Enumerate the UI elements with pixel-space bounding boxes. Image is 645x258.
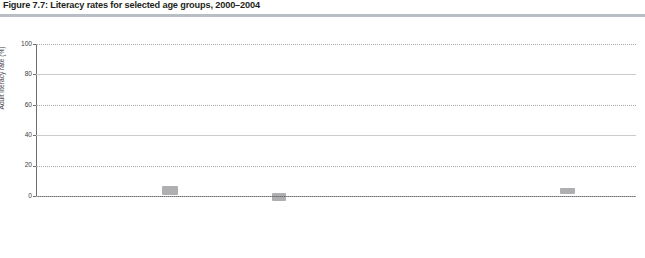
gridline <box>36 74 636 75</box>
y-tick-mark <box>33 166 36 167</box>
y-tick-mark <box>33 105 36 106</box>
y-tick-mark <box>33 135 36 136</box>
gridline <box>36 44 636 45</box>
y-tick-label: 100 <box>12 41 32 48</box>
y-tick-label: 20 <box>12 162 32 169</box>
y-tick-mark <box>33 74 36 75</box>
gridline <box>36 105 636 106</box>
plot-area <box>36 44 636 196</box>
y-tick-mark <box>33 196 36 197</box>
gridline <box>36 196 636 197</box>
y-tick-label: 80 <box>12 71 32 78</box>
scan-artifact <box>560 188 575 194</box>
y-tick-label: 40 <box>12 132 32 139</box>
y-axis-title: Adult literacy rate (%) <box>0 46 5 109</box>
title-divider <box>0 14 645 17</box>
y-tick-label: 60 <box>12 102 32 109</box>
scan-artifact <box>162 186 178 195</box>
figure-container: Figure 7.7: Literacy rates for selected … <box>0 0 645 258</box>
y-tick-mark <box>33 44 36 45</box>
scan-artifact <box>272 193 286 201</box>
gridline <box>36 166 636 167</box>
gridline <box>36 135 636 136</box>
y-tick-label: 0 <box>12 193 32 200</box>
figure-title: Figure 7.7: Literacy rates for selected … <box>3 0 260 10</box>
